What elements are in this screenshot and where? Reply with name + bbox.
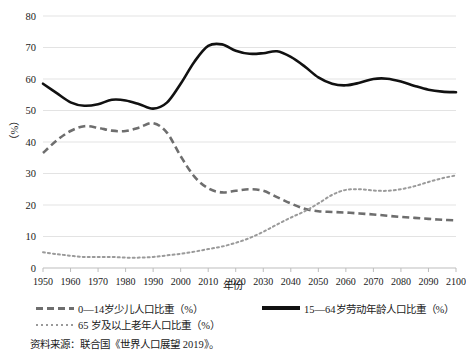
svg-text:40: 40 [26,137,37,148]
svg-text:30: 30 [26,168,37,179]
legend-label-elderly: 65 岁及以上老年人口比重（%） [78,317,220,332]
x-axis-ticks [43,268,456,272]
svg-text:20: 20 [26,200,37,211]
population-structure-chart: 01020304050607080 1950196019701980199020… [0,0,466,361]
source-note: 资料来源：联合国《世界人口展望 2019》。 [30,336,219,351]
series-lines [43,44,456,258]
series-line-1 [43,44,456,109]
plot-area: 01020304050607080 1950196019701980199020… [0,0,466,300]
legend-item-children[interactable]: 0—14岁少儿人口比重（%） [36,298,203,314]
series-line-0 [43,123,456,220]
chart-svg: 01020304050607080 1950196019701980199020… [0,0,466,300]
dashed-line-key [36,303,74,313]
svg-text:0: 0 [31,263,36,274]
svg-text:60: 60 [26,74,37,85]
svg-text:50: 50 [26,105,37,116]
svg-text:70: 70 [26,42,37,53]
legend-label-working-age: 15—64岁劳动年龄人口比重（%） [304,301,454,316]
legend-item-elderly[interactable]: 65 岁及以上老年人口比重（%） [36,314,220,330]
x-axis-title: 年份 [0,277,466,292]
solid-line-key [262,303,300,313]
legend-item-working-age[interactable]: 15—64岁劳动年龄人口比重（%） [262,298,454,314]
svg-text:10: 10 [26,231,37,242]
dotted-line-key [36,319,74,329]
y-axis-tick-labels: 01020304050607080 [26,11,37,274]
svg-text:80: 80 [26,11,37,22]
y-axis-title: （%） [6,123,21,145]
chart-legend: 0—14岁少儿人口比重（%） 15—64岁劳动年龄人口比重（%） 65 岁及以上… [0,298,466,332]
